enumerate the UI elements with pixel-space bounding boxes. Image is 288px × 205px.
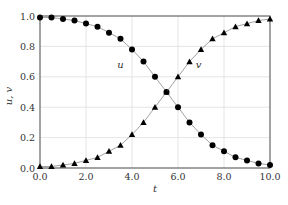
y-tick: 0.8 — [20, 41, 35, 52]
marker-circle — [129, 46, 135, 52]
curve-label-u: u — [117, 59, 123, 70]
marker-circle — [175, 104, 181, 110]
marker-circle — [118, 36, 124, 42]
marker-circle — [141, 59, 147, 65]
series-line-v — [40, 19, 270, 167]
marker-circle — [256, 160, 262, 166]
curve-label-v: v — [196, 59, 202, 70]
marker-circle — [60, 16, 66, 22]
marker-triangle — [267, 16, 273, 22]
y-axis-label: u, v — [3, 86, 14, 105]
marker-circle — [267, 162, 273, 168]
marker-circle — [152, 74, 158, 80]
y-tick: 1.0 — [20, 11, 35, 22]
x-tick: 6.0 — [170, 171, 185, 182]
y-tick: 0.4 — [20, 102, 35, 113]
marker-circle — [187, 119, 193, 125]
x-tick: 2.0 — [78, 171, 93, 182]
marker-circle — [49, 15, 55, 21]
marker-circle — [72, 18, 78, 24]
x-tick: 10.0 — [259, 171, 280, 182]
marker-triangle — [209, 36, 215, 42]
y-tick: 0.6 — [20, 71, 35, 82]
marker-circle — [95, 24, 101, 30]
x-tick: 4.0 — [124, 171, 139, 182]
marker-circle — [37, 15, 43, 21]
x-tick-labels: 0.02.04.06.08.010.0 — [32, 171, 280, 182]
plot-frame — [40, 16, 270, 168]
marker-triangle — [106, 148, 112, 154]
series-line-u — [40, 18, 270, 166]
marker-triangle — [221, 30, 227, 36]
grid-lines — [40, 16, 270, 168]
x-tick: 8.0 — [216, 171, 231, 182]
marker-circle — [210, 142, 216, 148]
y-tick: 0.0 — [20, 163, 35, 174]
y-tick-labels: 0.00.20.40.60.81.0 — [20, 11, 35, 174]
marker-circle — [221, 148, 227, 154]
marker-circle — [198, 132, 204, 138]
marker-circle — [233, 154, 239, 160]
marker-circle — [244, 157, 250, 163]
marker-circle — [83, 21, 89, 27]
chart: 0.02.04.06.08.010.0 0.00.20.40.60.81.0 u… — [0, 0, 288, 205]
y-tick: 0.2 — [20, 132, 35, 143]
x-axis-label: t — [153, 183, 158, 194]
marker-circle — [106, 30, 112, 36]
series-layer — [37, 15, 273, 170]
marker-triangle — [94, 154, 100, 160]
